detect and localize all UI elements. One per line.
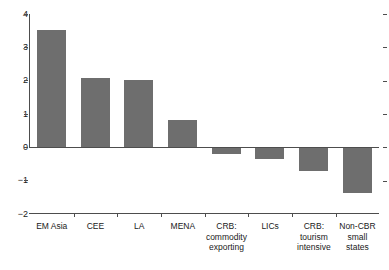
bar-cee [81, 78, 110, 147]
y-tick-label: −2 [6, 210, 28, 219]
x-label-crb-commodity-exporting: CRB: commodity exporting [205, 221, 249, 253]
x-label-mena: MENA [161, 221, 205, 232]
y-tick-0: 0 [0, 143, 28, 152]
right-tick-minus-1 [383, 181, 387, 182]
right-tick-4 [383, 14, 387, 15]
right-tick-3 [383, 47, 387, 48]
y-tick-minus-1: −1 [0, 176, 28, 185]
x-label-lics: LICs [248, 221, 292, 232]
x-tick [248, 213, 249, 217]
bar-em-asia [37, 30, 66, 147]
right-tick-1 [383, 114, 387, 115]
y-tick-1: 1 [0, 110, 28, 119]
x-tick [117, 213, 118, 217]
x-label-non-cbr-small-states: Non-CBR small states [336, 221, 380, 253]
y-tick-dash [24, 114, 28, 115]
y-tick-dash [24, 80, 28, 81]
x-tick [74, 213, 75, 217]
x-label-cee: CEE [74, 221, 118, 232]
x-label-crb-tourism-intensive: CRB: tourism intensive [292, 221, 336, 253]
y-tick-dash [24, 180, 28, 181]
x-tick [161, 213, 162, 217]
bar-lics [255, 148, 284, 159]
y-tick-minus-2: −2 [0, 210, 28, 219]
y-tick-4: 4 [0, 10, 28, 19]
right-tick-0 [383, 147, 387, 148]
y-tick-dash [24, 47, 28, 48]
x-tick [336, 213, 337, 217]
y-tick-3: 3 [0, 43, 28, 52]
bar-la [124, 80, 153, 147]
bar-mena [168, 120, 197, 147]
x-tick [205, 213, 206, 217]
x-tick [292, 213, 293, 217]
x-label-em-asia: EM Asia [30, 221, 74, 232]
bar-crb-tourism-intensive [299, 148, 328, 171]
bar-chart: 4 3 2 1 0 −1 −2 [0, 0, 389, 270]
y-tick-2: 2 [0, 76, 28, 85]
y-tick-dash [24, 14, 28, 15]
y-axis-line [29, 14, 30, 148]
y-tick-dash [24, 147, 28, 148]
x-label-la: LA [117, 221, 161, 232]
right-tick-2 [383, 81, 387, 82]
bar-crb-commodity-exporting [212, 148, 241, 154]
bar-non-cbr-small-states [343, 148, 372, 193]
